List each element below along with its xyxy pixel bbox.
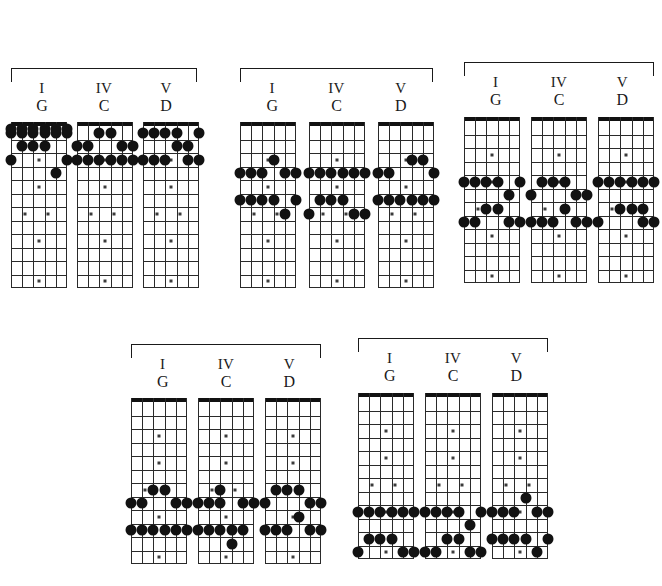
note-dot[interactable] [126, 525, 137, 536]
note-dot[interactable] [304, 168, 315, 179]
note-dot[interactable] [397, 547, 408, 558]
note-dot[interactable] [431, 547, 442, 558]
note-dot[interactable] [116, 141, 127, 152]
note-dot[interactable] [498, 533, 509, 544]
note-dot[interactable] [386, 506, 397, 517]
note-dot[interactable] [559, 176, 570, 187]
note-dot[interactable] [304, 525, 315, 536]
note-dot[interactable] [515, 217, 526, 228]
note-dot[interactable] [615, 176, 626, 187]
note-dot[interactable] [417, 195, 428, 206]
note-dot[interactable] [637, 203, 648, 214]
note-dot[interactable] [50, 168, 61, 179]
note-dot[interactable] [17, 141, 28, 152]
note-dot[interactable] [453, 506, 464, 517]
note-dot[interactable] [316, 525, 327, 536]
note-dot[interactable] [279, 208, 290, 219]
note-dot[interactable] [271, 525, 282, 536]
note-dot[interactable] [159, 484, 170, 495]
note-dot[interactable] [160, 154, 171, 165]
note-dot[interactable] [235, 168, 246, 179]
note-dot[interactable] [39, 141, 50, 152]
note-dot[interactable] [520, 493, 531, 504]
note-dot[interactable] [226, 538, 237, 549]
note-dot[interactable] [531, 506, 542, 517]
note-dot[interactable] [481, 203, 492, 214]
note-dot[interactable] [487, 533, 498, 544]
note-dot[interactable] [442, 506, 453, 517]
note-dot[interactable] [235, 195, 246, 206]
note-dot[interactable] [50, 124, 61, 135]
note-dot[interactable] [459, 176, 470, 187]
note-dot[interactable] [326, 195, 337, 206]
note-dot[interactable] [626, 176, 637, 187]
note-dot[interactable] [326, 168, 337, 179]
note-dot[interactable] [148, 525, 159, 536]
note-dot[interactable] [373, 168, 384, 179]
fretboard-d-set4[interactable] [265, 398, 321, 564]
note-dot[interactable] [570, 217, 581, 228]
note-dot[interactable] [279, 168, 290, 179]
note-dot[interactable] [537, 217, 548, 228]
note-dot[interactable] [39, 124, 50, 135]
note-dot[interactable] [637, 176, 648, 187]
note-dot[interactable] [537, 176, 548, 187]
note-dot[interactable] [409, 506, 420, 517]
note-dot[interactable] [182, 154, 193, 165]
note-dot[interactable] [72, 141, 83, 152]
note-dot[interactable] [257, 168, 268, 179]
note-dot[interactable] [194, 127, 205, 138]
fretboard-c-set4[interactable] [198, 398, 254, 564]
note-dot[interactable] [487, 506, 498, 517]
note-dot[interactable] [531, 547, 542, 558]
note-dot[interactable] [543, 506, 554, 517]
note-dot[interactable] [215, 525, 226, 536]
note-dot[interactable] [397, 506, 408, 517]
note-dot[interactable] [249, 498, 260, 509]
note-dot[interactable] [409, 547, 420, 558]
note-dot[interactable] [453, 533, 464, 544]
note-dot[interactable] [159, 525, 170, 536]
note-dot[interactable] [149, 154, 160, 165]
note-dot[interactable] [459, 217, 470, 228]
note-dot[interactable] [481, 176, 492, 187]
note-dot[interactable] [582, 190, 593, 201]
note-dot[interactable] [498, 506, 509, 517]
note-dot[interactable] [360, 168, 371, 179]
note-dot[interactable] [364, 533, 375, 544]
note-dot[interactable] [353, 547, 364, 558]
note-dot[interactable] [226, 525, 237, 536]
note-dot[interactable] [420, 506, 431, 517]
note-dot[interactable] [515, 176, 526, 187]
note-dot[interactable] [304, 208, 315, 219]
note-dot[interactable] [149, 127, 160, 138]
note-dot[interactable] [384, 168, 395, 179]
note-dot[interactable] [237, 525, 248, 536]
note-dot[interactable] [526, 190, 537, 201]
note-dot[interactable] [464, 520, 475, 531]
note-dot[interactable] [271, 484, 282, 495]
note-dot[interactable] [28, 141, 39, 152]
note-dot[interactable] [348, 168, 359, 179]
note-dot[interactable] [6, 124, 17, 135]
note-dot[interactable] [548, 217, 559, 228]
note-dot[interactable] [170, 525, 181, 536]
note-dot[interactable] [304, 498, 315, 509]
note-dot[interactable] [193, 498, 204, 509]
note-dot[interactable] [503, 217, 514, 228]
note-dot[interactable] [105, 154, 116, 165]
note-dot[interactable] [649, 217, 660, 228]
note-dot[interactable] [246, 168, 257, 179]
note-dot[interactable] [137, 525, 148, 536]
note-dot[interactable] [160, 127, 171, 138]
note-dot[interactable] [386, 533, 397, 544]
note-dot[interactable] [182, 141, 193, 152]
note-dot[interactable] [138, 127, 149, 138]
fretboard-d-set3[interactable] [598, 117, 654, 283]
note-dot[interactable] [470, 176, 481, 187]
fretboard-c-set3[interactable] [531, 117, 587, 283]
note-dot[interactable] [364, 506, 375, 517]
fretboard-g-set5[interactable] [358, 393, 414, 559]
note-dot[interactable] [348, 208, 359, 219]
note-dot[interactable] [520, 533, 531, 544]
